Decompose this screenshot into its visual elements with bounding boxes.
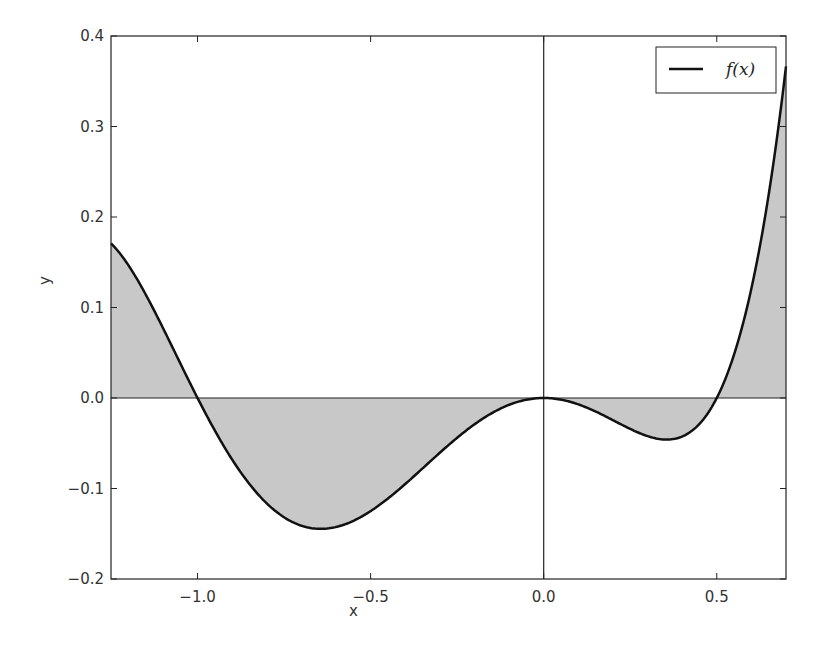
y-axis-label: y [36,276,54,285]
y-tick-label: 0.4 [80,27,104,45]
fill-region [111,66,786,529]
legend-label: f(x) [724,59,755,79]
y-tick-label: 0.3 [80,118,104,136]
x-axis: −1.0−0.50.00.5 [179,36,728,606]
y-axis: −0.2−0.10.00.10.20.30.4 [68,27,786,588]
x-tick-label: 0.0 [532,588,556,606]
x-axis-label: x [349,602,358,620]
y-tick-label: 0.1 [80,299,104,317]
y-tick-label: −0.1 [68,480,104,498]
x-tick-label: −1.0 [179,588,215,606]
y-tick-label: 0.0 [80,389,104,407]
x-tick-label: 0.5 [705,588,729,606]
plot-frame [111,36,786,579]
y-tick-label: −0.2 [68,570,104,588]
legend: f(x) [656,47,776,93]
y-tick-label: 0.2 [80,208,104,226]
fill-area [111,66,786,529]
series-line-f-x [111,66,786,529]
chart: −1.0−0.50.00.5 −0.2−0.10.00.10.20.30.4 x… [0,0,822,646]
